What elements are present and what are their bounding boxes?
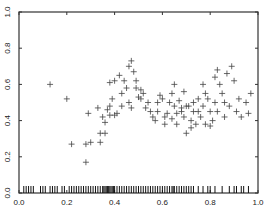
plus-marker (145, 100, 151, 106)
plus-marker (219, 90, 225, 96)
plus-marker (212, 100, 218, 106)
plus-marker (119, 103, 125, 109)
plus-marker (214, 109, 220, 115)
plus-marker (162, 121, 168, 127)
x-tick-label: 0.6 (157, 198, 169, 207)
plus-marker (195, 109, 201, 115)
plus-marker (212, 74, 218, 80)
plus-marker (121, 78, 127, 84)
plus-marker (238, 114, 244, 120)
plus-marker (171, 81, 177, 87)
plus-marker (174, 121, 180, 127)
y-tick-label: 0.8 (3, 42, 12, 54)
plus-marker (169, 116, 175, 122)
plus-marker (188, 118, 194, 124)
plus-marker (236, 96, 242, 102)
rug-plot (24, 186, 249, 193)
plus-marker (205, 96, 211, 102)
x-tick-label: 0.4 (109, 198, 121, 207)
plus-marker (155, 109, 161, 115)
plus-marker (198, 114, 204, 120)
y-tick-label: 0.0 (3, 187, 12, 199)
scatter-chart: 0.00.20.40.60.81.0 0.00.20.40.60.81.0 (0, 0, 271, 211)
plus-marker (83, 159, 89, 165)
plus-marker (210, 118, 216, 124)
plus-marker (207, 109, 213, 115)
plus-marker (243, 100, 249, 106)
plus-marker (128, 58, 134, 64)
plus-marker (100, 114, 106, 120)
plus-marker (116, 72, 122, 78)
plus-marker (128, 105, 134, 111)
plus-marker (109, 96, 115, 102)
plus-marker (183, 130, 189, 136)
plus-marker (47, 81, 53, 87)
plus-marker (226, 103, 232, 109)
y-tick-label: 0.2 (3, 151, 12, 163)
plus-marker (231, 78, 237, 84)
plus-marker (190, 100, 196, 106)
plus-marker (195, 96, 201, 102)
x-tick-label: 0.0 (13, 198, 25, 207)
plus-marker (147, 109, 153, 115)
plus-marker (169, 90, 175, 96)
plus-marker (102, 130, 108, 136)
plus-marker (245, 110, 251, 116)
x-tick-label: 1.0 (252, 198, 264, 207)
y-tick-label: 0.6 (3, 78, 12, 90)
plus-marker (214, 67, 220, 73)
plus-marker (95, 105, 101, 111)
plus-marker (119, 90, 125, 96)
plus-marker (200, 103, 206, 109)
plus-marker (176, 98, 182, 104)
plus-marker (133, 78, 139, 84)
y-tick-label: 1.0 (3, 6, 12, 18)
plus-marker (248, 90, 254, 96)
plus-marker (102, 119, 108, 125)
plus-marker (193, 121, 199, 127)
x-tick-label: 0.2 (61, 198, 73, 207)
plus-marker (69, 141, 75, 147)
plus-marker (155, 100, 161, 106)
plus-marker (97, 139, 103, 145)
plus-marker (181, 114, 187, 120)
plus-marker (202, 90, 208, 96)
plus-marker (171, 103, 177, 109)
y-tick-label: 0.4 (3, 114, 12, 126)
plus-marker (126, 100, 132, 106)
plus-marker (181, 89, 187, 95)
plus-marker (229, 63, 235, 69)
data-points (47, 58, 254, 165)
y-tick-labels: 0.00.20.40.60.81.0 (3, 6, 12, 199)
plus-marker (167, 100, 173, 106)
plus-marker (222, 100, 228, 106)
x-tick-label: 0.8 (205, 198, 217, 207)
x-tick-labels: 0.00.20.40.60.81.0 (13, 198, 264, 207)
plus-marker (188, 125, 194, 131)
plus-marker (217, 81, 223, 87)
plus-marker (233, 109, 239, 115)
plus-marker (64, 96, 70, 102)
plus-marker (85, 110, 91, 116)
plus-marker (222, 114, 228, 120)
plus-marker (126, 63, 132, 69)
plus-marker (124, 85, 130, 91)
plus-marker (143, 105, 149, 111)
plus-marker (131, 69, 137, 75)
plus-marker (224, 71, 230, 77)
plus-marker (200, 81, 206, 87)
